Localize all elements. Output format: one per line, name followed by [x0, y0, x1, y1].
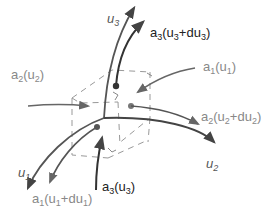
- u1-axis-arrow: [28, 118, 104, 188]
- a1-right-label: a1(u1): [203, 60, 236, 76]
- a1-right-arg-close: ): [232, 59, 236, 74]
- a2-right-arg-mid: +du: [230, 109, 252, 124]
- a2-right-arg-open: (u: [213, 109, 225, 124]
- a3-top-arg-mid: +du: [179, 25, 201, 40]
- a3-bottom-arg-open: (u: [114, 179, 126, 194]
- a3-top-label: a3(u3+du3): [150, 26, 210, 42]
- dashed-volume-element: [72, 70, 150, 158]
- a2-left-arg-close: ): [40, 67, 44, 82]
- u1-axis-label: u1: [18, 166, 30, 182]
- a1-bottom-arg-close: ): [88, 191, 92, 206]
- a3-bottom-arg-close: ): [131, 179, 135, 194]
- a1-right-vector: [138, 68, 195, 92]
- u1-label-sub: 1: [25, 172, 30, 182]
- a2-left-vector: [28, 105, 88, 107]
- a3-top-vector: [116, 22, 143, 86]
- a1-bottom-arg-open: (u: [44, 191, 56, 206]
- volume-element-diagram: [0, 0, 280, 216]
- a3-top-arg-open: (u: [162, 25, 174, 40]
- a2-right-label: a2(u2+du2): [201, 110, 261, 126]
- a1-right-arg-open: (u: [215, 59, 227, 74]
- a1-bottom-vector: [50, 127, 97, 182]
- u2-axis-arrow: [104, 118, 214, 142]
- a3-bottom-label: a3(u3): [102, 180, 135, 196]
- u2-axis-label: u2: [206, 157, 218, 173]
- u2-label-sub: 2: [213, 163, 218, 173]
- a3-top-arg-close: ): [206, 25, 210, 40]
- u3-label-sub: 3: [114, 18, 119, 28]
- a1-bottom-label: a1(u1+du1): [32, 192, 92, 208]
- a2-left-label: a2(u2): [11, 68, 44, 84]
- u3-axis-label: u3: [107, 12, 119, 28]
- a2-right-arg-close: ): [257, 109, 261, 124]
- a2-left-arg-open: (u: [23, 67, 35, 82]
- a1-bottom-arg-mid: +du: [61, 191, 83, 206]
